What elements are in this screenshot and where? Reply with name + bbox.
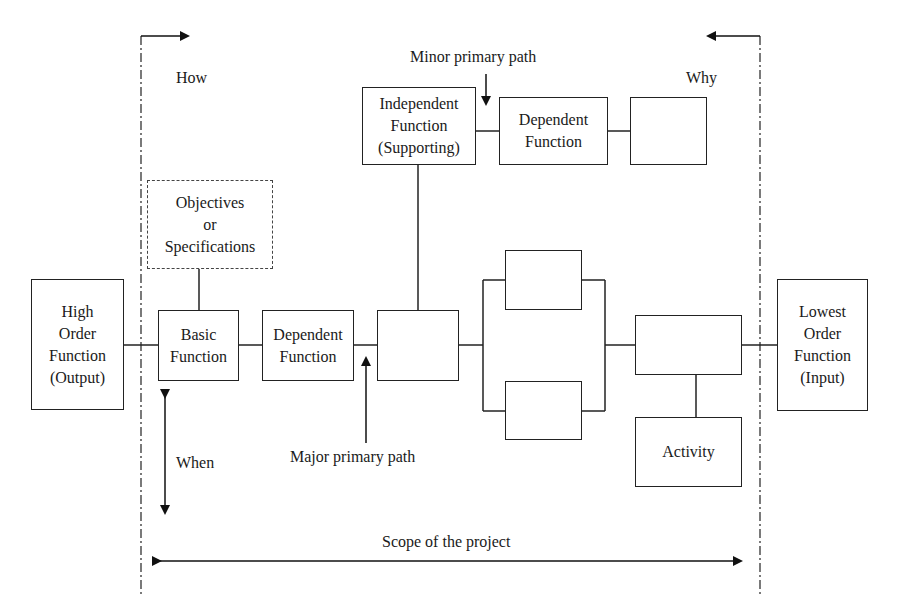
lowest-order-function-box: Lowest Order Function (Input) <box>777 279 868 411</box>
lowest-order-function-text: Lowest Order Function (Input) <box>794 301 851 389</box>
parallel-top-box <box>505 250 582 310</box>
basic-function-text: Basic Function <box>170 324 227 368</box>
basic-function-box: Basic Function <box>158 310 239 381</box>
dependent-function-top-box: Dependent Function <box>499 97 608 165</box>
when-label: When <box>176 453 214 473</box>
top-right-empty-box <box>630 97 707 165</box>
dependent-function-top-text: Dependent Function <box>519 109 588 153</box>
high-order-function-box: High Order Function (Output) <box>31 279 124 410</box>
independent-function-text: Independent Function (Supporting) <box>378 93 460 159</box>
objectives-specifications-box: Objectives or Specifications <box>147 180 273 269</box>
objectives-text: Objectives or Specifications <box>165 192 256 258</box>
right-function-box <box>635 315 742 375</box>
activity-box: Activity <box>635 417 742 487</box>
how-label: How <box>176 68 207 88</box>
dependent-function-text: Dependent Function <box>273 324 342 368</box>
scope-label: Scope of the project <box>382 532 510 552</box>
parallel-bottom-box <box>505 381 582 440</box>
minor-primary-path-label: Minor primary path <box>410 47 536 67</box>
activity-text: Activity <box>662 441 714 463</box>
high-order-function-text: High Order Function (Output) <box>49 301 106 389</box>
why-label: Why <box>686 68 717 88</box>
major-primary-path-label: Major primary path <box>290 447 415 467</box>
independent-function-box: Independent Function (Supporting) <box>362 87 476 165</box>
center-function-box <box>377 310 459 381</box>
dependent-function-box: Dependent Function <box>262 310 354 381</box>
